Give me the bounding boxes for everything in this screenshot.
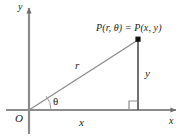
- figure-canvas: [0, 0, 184, 140]
- origin-label: O: [15, 113, 23, 124]
- x-axis-label: x: [169, 116, 173, 126]
- point-marker: [135, 37, 140, 42]
- radius-ray: [29, 40, 138, 110]
- angle-theta-label: θ: [53, 96, 58, 107]
- right-angle-marker: [129, 101, 138, 110]
- vertical-leg-label: y: [145, 68, 150, 79]
- polar-coordinates-figure: y x O r θ y x P(r, θ) = P(x, y): [0, 0, 184, 140]
- horizontal-leg-label: x: [79, 117, 84, 128]
- y-axis-label: y: [18, 2, 22, 12]
- radius-label: r: [75, 60, 79, 71]
- point-label: P(r, θ) = P(x, y): [96, 23, 162, 33]
